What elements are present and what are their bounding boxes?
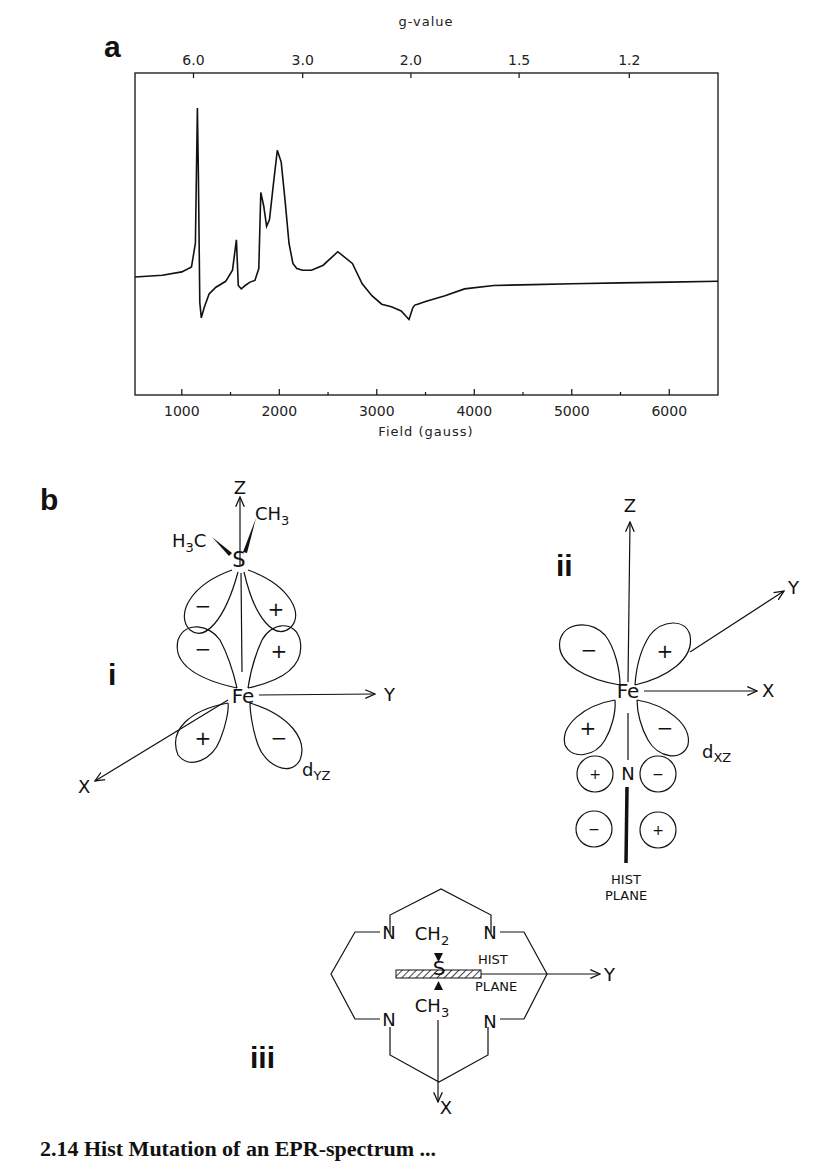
lobe-sign: +	[268, 597, 285, 621]
x-tick-label: 2000	[261, 403, 297, 419]
sulfur-atom-label: S	[232, 548, 245, 572]
hist-plane-label-2: PLANE	[475, 979, 517, 994]
panel-a-label: a	[104, 30, 121, 63]
z-axis-label: Z	[234, 477, 246, 498]
p-orbital-sign: −	[652, 766, 664, 782]
lobe-sign: +	[657, 639, 674, 663]
g-value-tick-label: 1.2	[618, 52, 640, 68]
up-wedge-icon	[434, 981, 443, 990]
lobe-sign: −	[271, 726, 288, 750]
y-axis-arrow	[259, 694, 375, 695]
lobe-sign: −	[581, 638, 598, 662]
plot-frame	[135, 73, 718, 395]
x-tick-label: 3000	[359, 403, 395, 419]
lobe-sign: +	[195, 726, 212, 750]
epr-spectrum-line	[135, 108, 718, 320]
nitrogen-atom-label: N	[483, 922, 496, 943]
left-methyl-label: H3C	[172, 530, 206, 555]
y-axis-label: Y	[603, 964, 616, 985]
g-value-tick-label: 3.0	[292, 52, 314, 68]
hist-plane-label-1: HIST	[611, 872, 641, 887]
left-methyl-wedge	[212, 537, 232, 556]
iron-atom-label: Fe	[617, 679, 640, 703]
y-axis-label: Y	[383, 684, 396, 705]
porphyrin-right-bridge	[500, 932, 547, 1019]
diagram-ii: ii Z Y − + + − Fe X N dXZ + − − +	[556, 495, 800, 903]
x-tick-label: 4000	[456, 403, 492, 419]
hist-plane-line	[626, 787, 627, 863]
diagram-ii-label: ii	[556, 549, 573, 582]
g-value-axis-title: g-value	[398, 14, 453, 29]
orbital-label-dyz: dYZ	[302, 759, 330, 783]
nitrogen-atom-label: N	[483, 1011, 496, 1032]
p-orbital-sign: −	[588, 821, 600, 837]
z-axis-label: Z	[624, 495, 636, 516]
nitrogen-atom-label: N	[621, 763, 634, 784]
g-value-tick-label: 2.0	[400, 52, 422, 68]
right-methyl-label: CH3	[255, 503, 289, 528]
x-axis-label: X	[78, 776, 90, 797]
nitrogen-atom-label: N	[382, 922, 395, 943]
g-value-tick-label: 6.0	[182, 52, 204, 68]
x-axis-label: X	[762, 680, 774, 701]
y-axis-arrow	[690, 591, 784, 652]
panel-b-label: b	[40, 483, 58, 516]
sulfur-atom-label: S	[433, 956, 446, 980]
p-orbital-sign: +	[589, 766, 601, 782]
diagram-iii-label: iii	[250, 1041, 275, 1074]
ch2-label: CH2	[415, 923, 449, 948]
top-axis-ticks: 6.03.02.01.51.2	[182, 52, 640, 78]
porphyrin-bottom-bridge	[390, 1027, 488, 1082]
nitrogen-atom-label: N	[382, 1009, 395, 1030]
lobe-sign: −	[195, 637, 212, 661]
x-tick-label: 6000	[651, 403, 687, 419]
z-axis-arrow	[628, 522, 630, 682]
iron-atom-label: Fe	[232, 684, 255, 708]
g-value-tick-label: 1.5	[508, 52, 530, 68]
x-tick-label: 5000	[554, 403, 590, 419]
lobe-sign: +	[580, 716, 597, 740]
lobe-sign: −	[657, 716, 674, 740]
lobe-sign: +	[271, 639, 288, 663]
diagram-i-label: i	[108, 658, 116, 691]
bottom-axis-ticks: 100020003000400050006000	[164, 389, 687, 419]
x-tick-label: 1000	[164, 403, 200, 419]
lobe-sign: −	[195, 594, 212, 618]
hist-plane-label-2: PLANE	[605, 888, 647, 903]
porphyrin-left-bridge	[331, 932, 380, 1019]
s-fe-bond	[241, 573, 242, 672]
diagram-iii: iii N N N N CH2 S HIST PLANE CH3 Y X	[250, 889, 616, 1118]
y-axis-label: Y	[787, 577, 800, 598]
figure-caption-partial: 2.14 Hist Mutation of an EPR-spectrum ..…	[40, 1136, 436, 1162]
orbital-label-dxz: dXZ	[702, 741, 731, 765]
diagram-i: i Z H3C CH3 S − + − + + − Fe Y X d	[78, 477, 396, 797]
x-axis-title: Field (gauss)	[378, 424, 473, 439]
p-orbital-sign: +	[652, 822, 664, 838]
chart-frame	[135, 73, 718, 395]
x-axis-label: X	[440, 1097, 452, 1118]
hist-plane-label-1: HIST	[478, 952, 508, 967]
ch3-label: CH3	[415, 995, 449, 1020]
